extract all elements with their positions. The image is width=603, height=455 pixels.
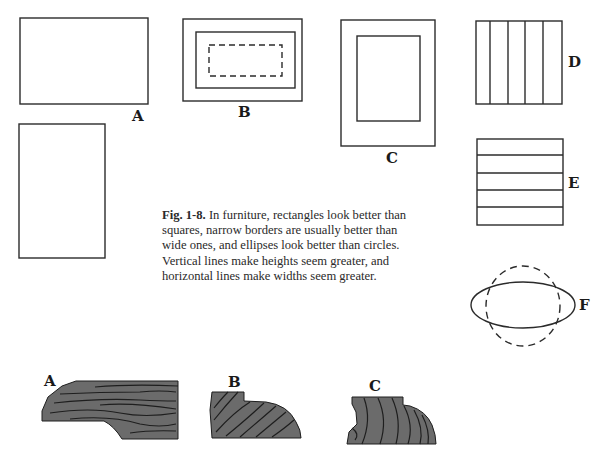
square-horizontal-lines: [477, 139, 563, 225]
panel-label-d: D: [568, 55, 581, 70]
figure-page: A B C D E F A B C Fig. 1-8. In furniture…: [0, 0, 603, 455]
square-vertical-lines: [476, 21, 562, 104]
horizontal-rectangle: [20, 18, 148, 104]
panel-label-e: E: [568, 176, 579, 191]
molding-label-a: A: [44, 374, 56, 389]
panel-f-shapes: [471, 266, 575, 346]
molding-b: [210, 392, 301, 438]
dashed-circle: [486, 266, 560, 346]
panel-c-shapes: [341, 20, 435, 146]
outer-wide-frame: [341, 20, 435, 146]
molding-label-b: B: [228, 375, 241, 390]
molding-label-c: C: [369, 379, 381, 394]
panel-label-b: B: [238, 105, 251, 120]
caption-line-1: In furniture, rectangles look better tha…: [209, 208, 406, 222]
molding-c: [347, 397, 436, 444]
panel-b-shapes: [183, 19, 302, 101]
panel-label-a: A: [132, 109, 144, 124]
vertical-rectangle: [19, 124, 105, 258]
panel-a-shapes: [19, 18, 148, 258]
panel-d-shapes: [476, 21, 562, 104]
dashed-inner-rect: [209, 45, 282, 76]
inner-panel: [357, 36, 420, 121]
molding-a: [42, 381, 178, 439]
panel-label-f: F: [579, 298, 590, 313]
panel-e-shapes: [477, 139, 563, 225]
figure-number: Fig. 1-8.: [162, 208, 206, 222]
panel-label-c: C: [386, 151, 398, 166]
caption-line-4: Vertical lines make heights seem greater…: [162, 254, 389, 268]
caption-line-5: horizontal lines make widths seem greate…: [162, 269, 377, 283]
clipped-next-caption: ​: [26, 449, 326, 455]
inner-frame-rect: [196, 32, 295, 88]
figure-caption: Fig. 1-8. In furniture, rectangles look …: [162, 208, 452, 284]
caption-line-3: wide ones, and ellipses look better than…: [162, 238, 399, 252]
caption-line-2: squares, narrow borders are usually bett…: [162, 223, 397, 237]
